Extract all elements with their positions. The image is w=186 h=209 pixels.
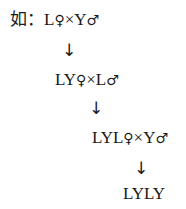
cross-sign: × <box>65 10 75 29</box>
down-arrow-icon: ↓ <box>62 40 76 60</box>
parent-male: L <box>96 70 106 89</box>
male-icon: ♂ <box>106 72 119 88</box>
male-icon: ♂ <box>87 12 100 28</box>
female-icon: ♀ <box>76 72 86 88</box>
cross-line-1: 如：L♀×Y♂ <box>10 10 99 30</box>
parent-female: LYL <box>92 128 123 147</box>
cross-sign: × <box>86 70 96 89</box>
female-icon: ♀ <box>54 12 64 28</box>
parent-female: L <box>44 10 54 29</box>
down-arrow-icon: ↓ <box>89 98 103 118</box>
cross-line-3: LYL♀×Y♂ <box>92 128 168 148</box>
male-icon: ♂ <box>155 130 168 146</box>
female-icon: ♀ <box>123 130 133 146</box>
down-arrow-icon: ↓ <box>134 158 148 178</box>
cross-line-2: LY♀×L♂ <box>55 70 119 90</box>
result-line: LYLY <box>123 184 165 204</box>
parent-female: LY <box>55 70 76 89</box>
cross-sign: × <box>134 128 144 147</box>
prefix-label: 如： <box>10 10 44 29</box>
parent-male: Y <box>74 10 86 29</box>
parent-male: Y <box>143 128 155 147</box>
